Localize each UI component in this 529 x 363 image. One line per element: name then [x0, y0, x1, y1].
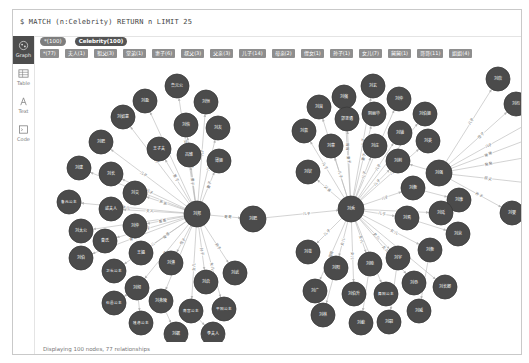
graph-node[interactable]: 刘阳 — [324, 256, 348, 280]
graph-node[interactable]: 刘仲 — [123, 214, 147, 238]
label-chip-all[interactable]: *(100) — [40, 37, 66, 46]
graph-node[interactable]: 阴丽华 — [362, 102, 386, 126]
graph-node[interactable]: 鲁元公 — [165, 74, 189, 98]
graph-node[interactable]: 鲁元公主 — [57, 190, 81, 214]
graph-node[interactable]: 刘睦 — [358, 252, 382, 276]
graph-node[interactable]: 刘婴 — [500, 201, 521, 225]
graph-node[interactable]: 曹氏 — [93, 229, 117, 253]
graph-node[interactable]: 刘歙 — [349, 311, 373, 335]
graph-node[interactable]: 刘欣 — [486, 67, 510, 91]
graph-node[interactable]: 刘盈 — [133, 89, 157, 113]
relationship-edge[interactable]: 妻子 — [346, 119, 351, 209]
graph-node[interactable]: 刘恒 — [194, 90, 218, 114]
relationship-chip[interactable]: 堂弟(1) — [123, 49, 146, 58]
graph-node[interactable]: 刘强 — [426, 160, 452, 186]
graph-node[interactable]: 刘秀 — [338, 196, 364, 222]
graph-node[interactable]: 平阳公主 — [212, 297, 236, 321]
relationship-chip[interactable]: 叔父(3) — [181, 49, 204, 58]
graph-node[interactable]: 刘威 — [407, 299, 431, 323]
graph-node[interactable]: 刘辅 — [388, 121, 412, 145]
graph-node[interactable]: 刘肥 — [240, 206, 266, 232]
graph-node[interactable]: 刘衡 — [418, 238, 442, 262]
graph-node[interactable]: 刘伯升 — [342, 282, 366, 306]
graph-node[interactable]: 刘林 — [311, 303, 335, 327]
relationship-edge[interactable]: 侄子 — [439, 104, 516, 173]
graph-node[interactable]: 刘荆 — [386, 149, 410, 173]
graph-node[interactable]: 石邑公主 — [102, 291, 126, 315]
relationship-edge[interactable]: 女儿 — [351, 209, 386, 294]
graph-visualization[interactable]: 哥哥儿子女儿儿子儿子儿子儿子儿子儿子妻子妻子妻子儿子儿子弟弟女儿夫人父亲哥哥妻子… — [35, 60, 521, 342]
relationship-chip[interactable]: 母亲(2) — [272, 49, 295, 58]
graph-node[interactable]: 吕雉 — [177, 143, 201, 167]
query-text[interactable]: $ MATCH (n:Celebrity) RETURN n LIMIT 25 — [20, 18, 192, 26]
graph-node[interactable]: 刘弗陵 — [149, 289, 173, 313]
relationship-chip[interactable]: 女儿(7) — [359, 49, 382, 58]
graph-node[interactable]: 刘如意 — [111, 105, 135, 129]
graph-node[interactable]: 卫长公主 — [102, 259, 126, 283]
graph-node[interactable]: 刘延 — [429, 201, 453, 225]
graph-node[interactable]: 刘嘉 — [292, 119, 316, 143]
graph-node[interactable]: 刘钦 — [296, 160, 320, 184]
relationship-chip[interactable]: 祖父(3) — [94, 49, 117, 58]
graph-node[interactable]: 刘建 — [67, 156, 91, 180]
graph-node[interactable]: 薄姬 — [207, 149, 231, 173]
graph-node[interactable]: 刘章 — [319, 134, 343, 158]
graph-node[interactable]: 刘友 — [206, 116, 230, 140]
graph-node[interactable]: 刘邦 — [184, 201, 210, 227]
graph-node[interactable]: 刘交 — [123, 181, 147, 205]
graph-node[interactable]: 刘启 — [194, 270, 218, 294]
sidebar-item-text[interactable]: Text — [13, 92, 34, 120]
relationship-chip[interactable]: 侄女(1) — [301, 49, 324, 58]
graph-node[interactable]: 刘庄 — [363, 134, 387, 158]
relationship-chip[interactable]: 舅舅(1) — [388, 49, 411, 58]
graph-node[interactable]: 刘焉 — [395, 206, 419, 230]
graph-canvas[interactable]: 哥哥儿子女儿儿子儿子儿子儿子儿子儿子妻子妻子妻子儿子儿子弟弟女儿夫人父亲哥哥妻子… — [35, 60, 521, 342]
relationship-chip[interactable]: 夫人(1) — [65, 49, 88, 58]
relationship-edge[interactable]: 儿子 — [439, 79, 498, 173]
relationship-edge[interactable]: 女儿 — [197, 214, 224, 309]
relationship-chip[interactable]: 妻子(6) — [152, 49, 175, 58]
graph-node[interactable]: 刘宇 — [386, 246, 410, 270]
graph-node[interactable]: 刘玄 — [361, 74, 385, 98]
graph-node[interactable]: 王子夫 — [147, 137, 171, 161]
graph-node[interactable]: 南宫公主 — [179, 299, 203, 323]
relationship-chip[interactable]: 孙子(1) — [330, 49, 353, 58]
graph-node[interactable]: 刘太公 — [69, 219, 93, 243]
sidebar-item-table[interactable]: Table — [13, 64, 34, 92]
graph-node[interactable]: 刘广 — [303, 279, 327, 303]
graph-node[interactable]: 刘英 — [416, 129, 440, 153]
graph-node[interactable]: 刘长卿 — [433, 275, 457, 299]
relationship-chip[interactable]: 哥哥(11) — [417, 49, 443, 58]
graph-node[interactable]: 刘仲 — [387, 87, 411, 111]
graph-node[interactable]: 戚夫人 — [99, 197, 123, 221]
query-bar[interactable]: $ MATCH (n:Celebrity) RETURN n LIMIT 25 — [13, 10, 521, 37]
relationship-edge[interactable]: 儿子 — [253, 209, 351, 219]
graph-node[interactable]: 隆虑公主 — [129, 311, 153, 335]
graph-node[interactable]: 刘据 — [164, 322, 188, 342]
sidebar-item-code[interactable]: Code — [13, 120, 34, 148]
relationship-chip[interactable]: 儿子(14) — [239, 49, 265, 58]
relationship-chip[interactable]: 姐姐(4) — [449, 49, 472, 58]
graph-node[interactable]: 刘恭 — [402, 271, 426, 295]
relationship-chip[interactable]: 父亲(3) — [210, 49, 233, 58]
graph-node[interactable]: 刘恢 — [174, 113, 198, 137]
graph-node[interactable]: 刘伯 — [69, 246, 93, 270]
graph-node[interactable]: 刘彻 — [125, 276, 149, 300]
relationship-edge[interactable]: 女儿 — [191, 214, 197, 311]
graph-node[interactable]: 刘武 — [223, 261, 247, 285]
graph-node[interactable]: 郭圣通 — [335, 107, 359, 131]
graph-node[interactable]: 刘肥 — [89, 130, 113, 154]
graph-node[interactable]: 舞阳公主 — [374, 282, 398, 306]
graph-node[interactable]: 刘伯姬 — [413, 102, 437, 126]
sidebar-item-graph[interactable]: Graph — [13, 36, 34, 64]
graph-node[interactable]: 刘衡 — [401, 176, 425, 200]
graph-node[interactable]: 刘縯 — [332, 85, 356, 109]
graph-node[interactable]: 刘长 — [99, 162, 123, 186]
graph-node[interactable]: 刘嗣 — [377, 310, 401, 334]
label-chip-celebrity[interactable]: Celebrity(100) — [75, 37, 128, 46]
relationship-chip[interactable]: *(77) — [40, 49, 59, 58]
graph-node[interactable]: 刘苍 — [296, 240, 320, 264]
graph-node[interactable]: 刘濞 — [159, 251, 183, 275]
graph-node[interactable]: 王媪 — [129, 241, 153, 265]
graph-node[interactable]: 李夫人 — [201, 322, 225, 342]
